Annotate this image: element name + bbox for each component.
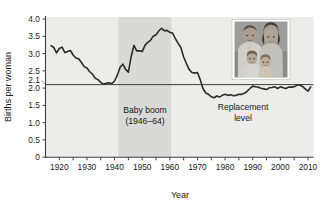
x-tick-label-1990: 1990 [243,162,262,172]
y-tick-label-2-0: 2.0 [28,83,40,93]
chart-svg: 4.0 3.5 3.0 2.5 2.1 2.0 1.5 1.0 0.5 0 19… [0,0,324,205]
y-tick-label-3-0: 3.0 [28,49,40,59]
replacement-label-line1: Replacement [218,102,269,112]
y-axis-title: Births per woman [3,52,13,122]
family-photo-inset [232,20,290,80]
fertility-rate-figure: 4.0 3.5 3.0 2.5 2.1 2.0 1.5 1.0 0.5 0 19… [0,0,324,205]
y-tick-label-4-0: 4.0 [28,14,40,24]
family-photo-image [235,22,288,79]
x-tick-label-2010: 2010 [299,162,318,172]
x-tick-label-1950: 1950 [133,162,152,172]
x-tick-label-1970: 1970 [188,162,207,172]
x-axis-title: Year [171,190,189,200]
y-tick-label-0: 0 [35,152,40,162]
replacement-label-line2: level [234,113,252,123]
x-tick-label-1920: 1920 [50,162,69,172]
baby-boom-label-line2: (1946–64) [125,116,164,126]
x-tick-label-1930: 1930 [78,162,97,172]
y-tick-label-1-5: 1.5 [28,100,40,110]
baby-boom-label-line1: Baby boom [123,105,166,115]
y-tick-label-1-0: 1.0 [28,118,40,128]
x-tick-label-2000: 2000 [271,162,290,172]
baby-boom-band [118,17,171,157]
x-tick-label-1940: 1940 [105,162,124,172]
x-tick-label-1980: 1980 [216,162,235,172]
y-tick-label-3-5: 3.5 [28,31,40,41]
x-tick-label-1960: 1960 [161,162,180,172]
y-tick-label-0-5: 0.5 [28,135,40,145]
